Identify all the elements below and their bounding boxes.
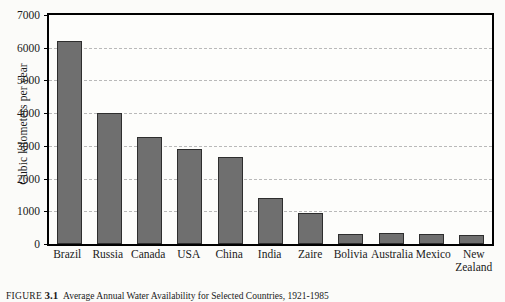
y-tick-label: 4000 xyxy=(0,107,43,119)
bar-cell xyxy=(291,15,331,244)
y-axis-tick-labels: 01000200030004000500060007000 xyxy=(0,0,43,302)
bar-cell xyxy=(49,15,89,244)
caption-figure-label: FIGURE xyxy=(6,291,42,301)
bar xyxy=(379,233,404,244)
y-tick-label: 0 xyxy=(0,238,43,250)
y-tick-label: 7000 xyxy=(0,9,43,21)
bar xyxy=(258,198,283,244)
bar-cell xyxy=(89,15,129,244)
x-tick-label: Australia xyxy=(371,248,413,273)
bar xyxy=(177,149,202,244)
plot-inner xyxy=(49,15,492,244)
x-axis-tick-labels: BrazilRussiaCanadaUSAChinaIndiaZaireBoli… xyxy=(47,248,494,273)
bar xyxy=(57,41,82,244)
bar-cell xyxy=(371,15,411,244)
bar xyxy=(419,234,444,244)
x-tick-label: Russia xyxy=(87,248,127,273)
plot-area xyxy=(47,13,494,246)
caption-figure-number: 3.1 xyxy=(44,290,58,301)
bar xyxy=(459,235,484,244)
bar xyxy=(298,213,323,244)
y-tick-mark xyxy=(44,244,49,245)
bar-cell xyxy=(130,15,170,244)
y-tick-label: 5000 xyxy=(0,74,43,86)
y-tick-label: 2000 xyxy=(0,173,43,185)
bar-cell xyxy=(411,15,451,244)
bar-cell xyxy=(210,15,250,244)
x-tick-label: Canada xyxy=(128,248,168,273)
bar-cell xyxy=(170,15,210,244)
y-tick-label: 3000 xyxy=(0,140,43,152)
x-tick-label: Zaire xyxy=(290,248,330,273)
bar-cell xyxy=(331,15,371,244)
caption-text: Average Annual Water Availability for Se… xyxy=(63,291,329,301)
bar-cell xyxy=(452,15,492,244)
x-tick-label: China xyxy=(209,248,249,273)
x-tick-label: New Zealand xyxy=(454,248,494,273)
x-tick-label: Mexico xyxy=(413,248,453,273)
x-tick-label: India xyxy=(249,248,289,273)
figure-caption: FIGURE 3.1 Average Annual Water Availabi… xyxy=(6,290,503,302)
bar xyxy=(97,113,122,244)
bar xyxy=(218,157,243,244)
bar xyxy=(338,234,363,244)
bar-cell xyxy=(250,15,290,244)
y-tick-label: 6000 xyxy=(0,42,43,54)
bar xyxy=(137,137,162,244)
x-tick-label: USA xyxy=(168,248,208,273)
y-tick-label: 1000 xyxy=(0,205,43,217)
figure-bar-chart: Cubic kilometers per year 01000200030004… xyxy=(0,0,505,302)
x-tick-label: Brazil xyxy=(47,248,87,273)
x-tick-label: Bolivia xyxy=(330,248,370,273)
bar-series xyxy=(49,15,492,244)
